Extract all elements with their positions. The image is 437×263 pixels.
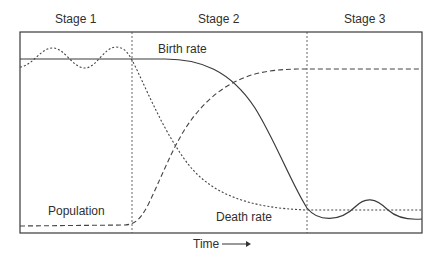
stage-1-label: Stage 1 (55, 12, 96, 26)
time-axis-label: Time (193, 237, 219, 251)
stage-2-label: Stage 2 (198, 12, 239, 26)
birth-rate-curve (20, 59, 422, 219)
birth-rate-label: Birth rate (158, 42, 207, 56)
right-arrow-icon (246, 241, 251, 247)
death-rate-label: Death rate (216, 210, 272, 224)
chart-frame (20, 32, 422, 233)
population-label: Population (48, 204, 105, 218)
stage-3-label: Stage 3 (344, 12, 385, 26)
death-rate-curve (20, 47, 422, 210)
